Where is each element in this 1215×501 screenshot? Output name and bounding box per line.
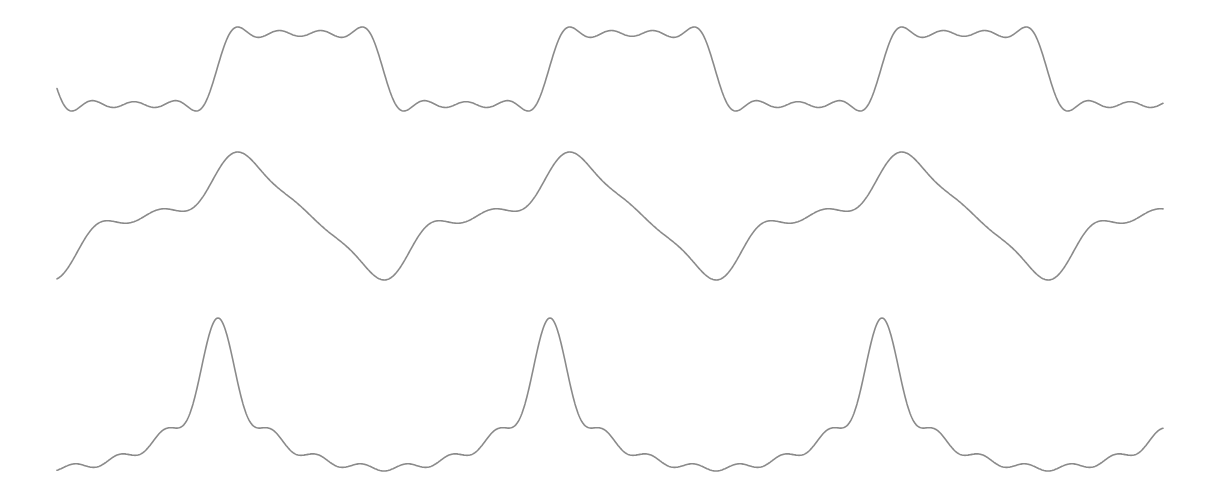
peaked-wave-curve [57, 318, 1163, 471]
square-wave-curve [57, 27, 1163, 111]
stepped-wave-curve [57, 152, 1163, 280]
waveform-plot [0, 0, 1215, 501]
